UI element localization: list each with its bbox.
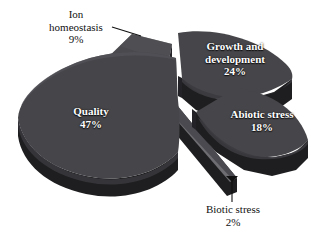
slice-label-growth-and-development-line2: development <box>205 53 265 65</box>
slice-label-quality-text: Quality <box>73 105 108 117</box>
slice-value-ion-homeostasis: 9% <box>38 33 114 46</box>
leader-line-ion-homeostasis <box>112 27 141 36</box>
slice-label-ion-homeostasis-line1: Ion <box>69 8 84 20</box>
slice-label-abiotic-stress-text: Abiotic stress <box>230 108 293 120</box>
slice-label-ion-homeostasis-line2: homeostasis <box>49 21 103 33</box>
pie-slice-abiotic-stress-left-wall <box>192 109 196 130</box>
slice-value-abiotic-stress: 18% <box>216 121 308 134</box>
slice-label-biotic-stress-text: Biotic stress <box>206 203 260 215</box>
slice-value-growth-and-development: 24% <box>182 65 288 78</box>
slice-value-quality: 47% <box>48 118 134 131</box>
pie-chart-figure: Ion homeostasis 9% Biotic stress 2% Qual… <box>0 0 330 235</box>
slice-value-biotic-stress: 2% <box>186 216 280 229</box>
slice-label-growth-and-development: Growth and development 24% <box>182 40 288 78</box>
pie-slice-growth-and-development-left-wall <box>178 76 182 98</box>
slice-label-biotic-stress: Biotic stress 2% <box>186 203 280 228</box>
slice-label-ion-homeostasis: Ion homeostasis 9% <box>38 8 114 46</box>
slice-label-abiotic-stress: Abiotic stress 18% <box>216 108 308 133</box>
slice-label-growth-and-development-line1: Growth and <box>207 40 264 52</box>
slice-label-quality: Quality 47% <box>48 105 134 130</box>
